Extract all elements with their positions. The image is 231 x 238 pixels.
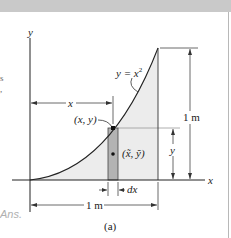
centroid-label: (x̃, ỹ) (122, 148, 145, 159)
figure-caption: (a) (104, 221, 116, 232)
y-axis-label: y (28, 27, 33, 38)
centroid-point (111, 152, 115, 156)
curve-equation: y = x2 (116, 67, 142, 79)
y-dimension-label: y (170, 145, 175, 156)
answer-marker: Ans. (0, 208, 22, 220)
width-dimension-label: 1 m (86, 200, 103, 211)
dx-label: dx (127, 184, 137, 195)
height-dimension-label: 1 m (183, 112, 200, 123)
x-dimension-label: x (68, 98, 73, 109)
point-xy (111, 126, 115, 130)
x-axis-label: x (208, 175, 213, 186)
point-label: (x, y) (74, 114, 97, 125)
